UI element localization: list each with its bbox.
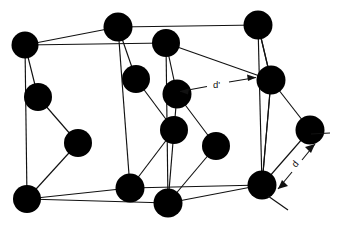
atom — [244, 11, 273, 40]
d-prime-label: d' — [213, 79, 220, 90]
atom — [160, 116, 188, 144]
atom — [13, 185, 41, 213]
cell-edge — [118, 25, 258, 27]
bond — [262, 80, 271, 185]
cell-edge — [27, 199, 168, 203]
d-prime-arrowhead-right — [247, 75, 256, 81]
cell-edge — [27, 188, 130, 199]
cell-edge — [130, 185, 262, 188]
atom — [24, 83, 52, 111]
cell-edge — [118, 27, 130, 188]
d-extension-tick-lower — [268, 196, 288, 210]
dimension-d-prime: d' — [180, 75, 256, 95]
unit-cell-edges — [25, 25, 271, 203]
dimension-d: d — [268, 133, 330, 210]
atom — [152, 29, 180, 57]
atom — [202, 132, 230, 160]
d-arrowhead-upper — [305, 144, 315, 153]
atom — [248, 171, 277, 200]
atom — [12, 32, 39, 59]
cell-edge — [258, 25, 262, 185]
atom — [154, 189, 183, 218]
d-label: d — [289, 158, 301, 169]
atom — [296, 116, 325, 145]
lattice-drawing: d' d — [0, 0, 347, 229]
atom — [64, 129, 92, 157]
atom — [104, 13, 133, 42]
cell-edge — [166, 43, 271, 80]
cell-edge — [25, 45, 27, 199]
crystal-structure-figure: d' d — [0, 0, 347, 229]
d-arrowhead-lower — [278, 180, 288, 189]
atom — [116, 174, 145, 203]
atom — [122, 65, 150, 93]
atom — [257, 66, 286, 95]
cell-edge — [25, 43, 166, 45]
